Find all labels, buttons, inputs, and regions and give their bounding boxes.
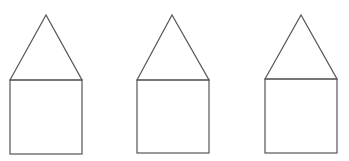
body-square bbox=[265, 79, 337, 153]
roof-triangle bbox=[10, 15, 82, 80]
house-shape bbox=[137, 15, 209, 153]
body-square bbox=[10, 80, 82, 154]
houses-diagram bbox=[0, 0, 349, 161]
body-square bbox=[137, 80, 209, 153]
house-shape bbox=[265, 15, 337, 153]
roof-triangle bbox=[265, 15, 337, 79]
roof-triangle bbox=[137, 15, 209, 80]
house-shape bbox=[10, 15, 82, 154]
